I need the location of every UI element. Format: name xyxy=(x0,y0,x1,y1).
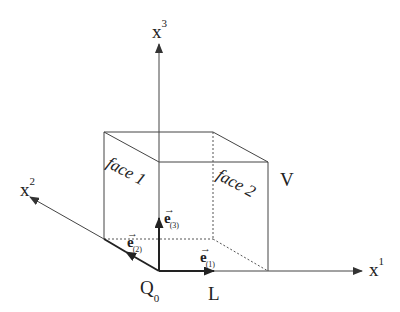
x2-axis-label: x2 xyxy=(20,180,35,199)
vector-arrow-icon: → xyxy=(127,228,138,239)
volume-label: V xyxy=(280,170,294,189)
e2-label: →e(2) xyxy=(127,235,143,250)
cube-coordinate-diagram: x3 x2 x1 face 1 face 2 V L Q0 →e(3) →e(2… xyxy=(0,0,400,312)
length-label: L xyxy=(208,284,220,303)
vector-arrow-icon: → xyxy=(164,204,175,215)
x3-axis-label: x3 xyxy=(152,22,167,41)
origin-label: Q0 xyxy=(140,278,159,301)
e2-vector-tail xyxy=(104,239,126,252)
e1-label: →e(1) xyxy=(200,250,216,265)
x2-axis xyxy=(30,197,104,239)
vector-arrow-icon: → xyxy=(200,243,211,254)
e2-vector xyxy=(126,252,159,271)
e3-label: →e(3) xyxy=(164,211,180,226)
x1-axis-label: x1 xyxy=(369,260,384,279)
diagram-lines xyxy=(0,0,400,312)
